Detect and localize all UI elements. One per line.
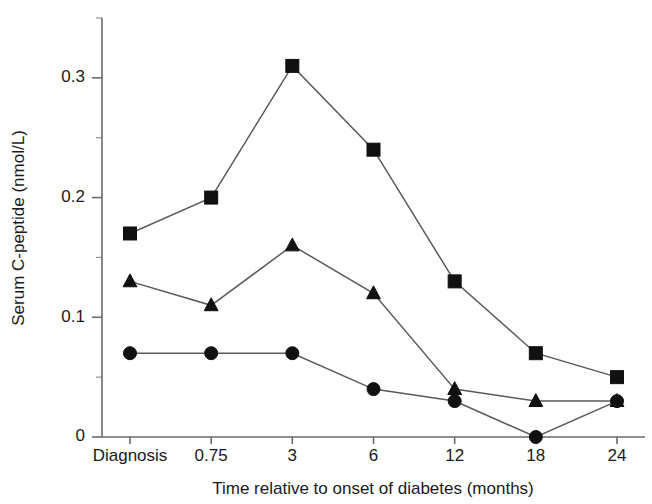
line-chart-canvas: 00.10.20.3 Diagnosis0.7536121824 Time re… (0, 0, 652, 504)
series-triangle (123, 238, 624, 407)
data-series-layer (123, 59, 624, 443)
data-point-square (205, 191, 218, 204)
data-point-square (529, 347, 542, 360)
y-tick-label: 0.1 (61, 307, 85, 326)
series-line (130, 245, 617, 401)
data-point-circle (611, 395, 624, 408)
y-tick-label: 0 (76, 426, 85, 445)
x-tick-label: Diagnosis (93, 446, 168, 465)
data-point-circle (367, 383, 380, 396)
x-tick-label: 18 (526, 446, 545, 465)
x-tick-label: 6 (369, 446, 378, 465)
series-line (130, 66, 617, 377)
data-point-square (124, 227, 137, 240)
y-tick-label: 0.2 (61, 187, 85, 206)
data-point-triangle (285, 238, 299, 251)
x-axis-ticks (130, 437, 617, 444)
data-point-square (611, 371, 624, 384)
data-point-square (448, 275, 461, 288)
data-point-square (367, 143, 380, 156)
data-point-square (286, 59, 299, 72)
data-point-circle (205, 347, 218, 360)
series-square (124, 59, 624, 383)
x-axis-tick-labels: Diagnosis0.7536121824 (93, 446, 627, 465)
x-tick-label: 12 (445, 446, 464, 465)
y-axis-title: Serum C-peptide (nmol/L) (9, 130, 28, 326)
data-point-circle (529, 431, 542, 444)
x-axis-title: Time relative to onset of diabetes (mont… (212, 479, 534, 498)
data-point-circle (124, 347, 137, 360)
y-tick-label: 0.3 (61, 67, 85, 86)
data-point-circle (448, 395, 461, 408)
y-axis-tick-labels: 00.10.20.3 (61, 67, 85, 445)
series-circle (124, 347, 624, 444)
data-point-triangle (367, 286, 381, 299)
data-point-triangle (123, 274, 137, 287)
x-tick-label: 3 (288, 446, 297, 465)
x-tick-label: 24 (608, 446, 627, 465)
x-tick-label: 0.75 (195, 446, 228, 465)
data-point-circle (286, 347, 299, 360)
chart-figure: 00.10.20.3 Diagnosis0.7536121824 Time re… (0, 0, 652, 504)
